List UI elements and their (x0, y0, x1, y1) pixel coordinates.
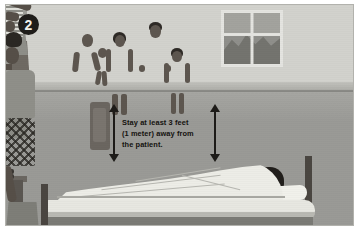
man-hand-left (139, 65, 145, 72)
floor-bag-highlight (93, 108, 106, 142)
window-mullion-horizontal (224, 33, 280, 36)
illustration-screenshot: Stay at least 3 feet (1 meter) away from… (0, 0, 359, 234)
caregiver-arm-lowered (5, 165, 17, 202)
woman2-leg-right (121, 94, 127, 115)
caregiver-forearm-raised (5, 11, 20, 22)
girl-head (172, 51, 182, 62)
caregiver-hand-stop-gesture (5, 21, 15, 32)
woman-head (82, 34, 93, 47)
distance-instruction-caption: Stay at least 3 feet (1 meter) away from… (122, 117, 208, 150)
caregiver-hair (5, 32, 22, 47)
baby-leg-right (101, 71, 107, 86)
distance-arrow-left-shaft (113, 111, 115, 156)
figure-caregiver (5, 4, 40, 226)
bed-post-left (41, 184, 48, 226)
girl-arm-right (185, 63, 190, 83)
woman2-head (115, 35, 125, 47)
girl-arm-left (164, 63, 169, 83)
window (221, 10, 283, 67)
bed-base (45, 217, 313, 226)
caption-line-3: the patient. (122, 139, 208, 150)
illustration-frame: Stay at least 3 feet (1 meter) away from… (5, 4, 354, 226)
distance-arrow-right-shaft (214, 111, 216, 156)
wall-panel-middle (67, 4, 178, 92)
distance-arrow-left-head-down (109, 154, 119, 162)
girl-leg-left (171, 93, 176, 114)
man-head (150, 25, 161, 38)
caregiver-torso (5, 70, 35, 118)
girl-leg-right (179, 93, 184, 114)
window-mullion-vertical (251, 13, 254, 64)
caregiver-skirt (5, 202, 40, 226)
step-number-badge: 2 (18, 14, 39, 35)
caption-line-2: (1 meter) away from (122, 128, 208, 139)
caption-line-1: Stay at least 3 feet (122, 117, 208, 128)
woman2-arm-left (106, 49, 111, 72)
blanket-edge (57, 196, 285, 198)
caregiver-dress-pattern (5, 118, 35, 166)
caregiver-head (5, 47, 19, 64)
woman2-arm-right (128, 49, 133, 72)
distance-arrow-right-head-down (210, 154, 220, 162)
